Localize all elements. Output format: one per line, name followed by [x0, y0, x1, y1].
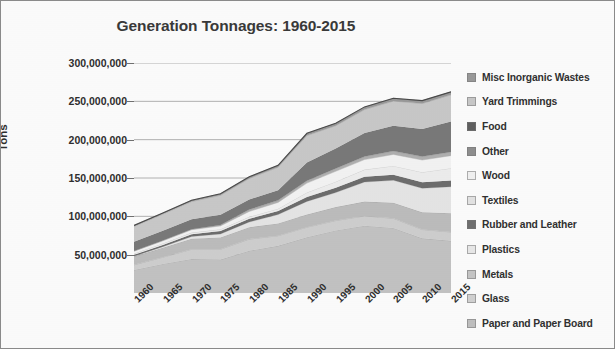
legend-swatch: [467, 122, 476, 131]
legend-item[interactable]: Misc Inorganic Wastes: [467, 65, 615, 90]
legend-swatch: [467, 319, 476, 328]
legend-item-label: Paper and Paper Board: [482, 318, 593, 329]
x-axis-tick-labels: 1960196519701975198019851990199520002005…: [134, 293, 451, 348]
legend-item-label: Textiles: [482, 195, 518, 206]
stacked-area-svg: [134, 63, 451, 293]
legend-item-label: Misc Inorganic Wastes: [482, 72, 589, 83]
legend-swatch: [467, 270, 476, 279]
y-axis-tick-label: 100,000,000: [19, 210, 127, 222]
legend-item[interactable]: Paper and Paper Board: [467, 311, 615, 336]
legend-item[interactable]: Food: [467, 114, 615, 139]
y-axis-tick-labels: 300,000,000250,000,000200,000,000150,000…: [19, 63, 127, 293]
chart-title: Generation Tonnages: 1960-2015: [1, 17, 471, 35]
y-axis-tick-label: 300,000,000: [19, 57, 127, 69]
y-axis-tick-label: 50,000,000: [19, 249, 127, 261]
legend-item-label: Yard Trimmings: [482, 96, 557, 107]
y-axis-tick-mark: [127, 101, 134, 102]
legend-item[interactable]: Other: [467, 139, 615, 164]
legend-item[interactable]: Glass: [467, 286, 615, 311]
legend-item-label: Metals: [482, 269, 513, 280]
legend-swatch: [467, 196, 476, 205]
legend-item[interactable]: Wood: [467, 163, 615, 188]
legend-item[interactable]: Plastics: [467, 237, 615, 262]
legend-item[interactable]: Textiles: [467, 188, 615, 213]
legend-swatch: [467, 73, 476, 82]
y-axis-tick-mark: [127, 178, 134, 179]
y-axis-title: Tons: [0, 124, 9, 151]
chart-frame: Generation Tonnages: 1960-2015 Tons 300,…: [0, 0, 615, 349]
legend-item-label: Plastics: [482, 244, 520, 255]
legend-item[interactable]: Yard Trimmings: [467, 90, 615, 115]
legend-swatch: [467, 171, 476, 180]
legend-item[interactable]: Metals: [467, 262, 615, 287]
y-axis-tick-mark: [127, 63, 134, 64]
legend-swatch: [467, 147, 476, 156]
legend-item-label: Food: [482, 121, 507, 132]
chart-legend: Misc Inorganic WastesYard TrimmingsFoodO…: [467, 65, 615, 336]
y-axis-tick-label: 200,000,000: [19, 134, 127, 146]
legend-item[interactable]: Rubber and Leather: [467, 213, 615, 238]
y-axis-tick-mark: [127, 255, 134, 256]
y-axis-tick-label: 150,000,000: [19, 172, 127, 184]
legend-swatch: [467, 245, 476, 254]
plot-area: [134, 63, 451, 293]
legend-swatch: [467, 97, 476, 106]
y-axis-tick-label: 250,000,000: [19, 95, 127, 107]
legend-item-label: Rubber and Leather: [482, 219, 577, 230]
legend-swatch: [467, 220, 476, 229]
y-axis-tick-mark: [127, 216, 134, 217]
y-axis-tick-mark: [127, 140, 134, 141]
legend-item-label: Wood: [482, 170, 510, 181]
legend-item-label: Glass: [482, 293, 509, 304]
legend-swatch: [467, 294, 476, 303]
legend-item-label: Other: [482, 146, 509, 157]
